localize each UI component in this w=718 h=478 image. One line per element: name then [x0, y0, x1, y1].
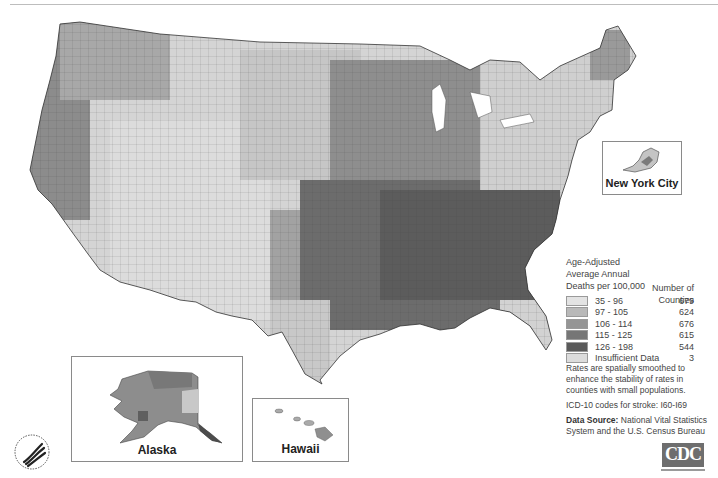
- nyc-inset: New York City: [602, 141, 682, 195]
- legend-swatch: [566, 307, 588, 317]
- alaska-inset: Alaska: [71, 356, 243, 462]
- alaska-label: Alaska: [72, 443, 242, 457]
- legend-swatch: [566, 353, 588, 363]
- map-notes: Rates are spatially smoothed to enhance …: [566, 363, 716, 441]
- legend-count: 615: [679, 330, 694, 340]
- legend-title-line-1: Age-Adjusted: [566, 256, 718, 268]
- legend-count: 544: [679, 342, 694, 352]
- smoothing-note: Rates are spatially smoothed to enhance …: [566, 363, 716, 396]
- legend-count: 3: [689, 353, 694, 363]
- legend-count: 679: [679, 296, 694, 306]
- nyc-label: New York City: [603, 177, 681, 189]
- legend: Age-Adjusted Average Annual Deaths per 1…: [566, 256, 718, 364]
- legend-row: 106 - 114 676: [566, 318, 718, 330]
- nyc-shape: [603, 144, 681, 178]
- icd-codes-note: ICD-10 codes for stroke: I60-I69: [566, 400, 716, 411]
- legend-count: 624: [679, 307, 694, 317]
- legend-row: 97 - 105 624: [566, 307, 718, 319]
- legend-row: 115 - 125 615: [566, 330, 718, 342]
- legend-swatch: [566, 319, 588, 329]
- legend-range: 97 - 105: [595, 307, 628, 317]
- legend-range: 115 - 125: [595, 330, 632, 340]
- cdc-logo: CDC: [662, 443, 704, 467]
- legend-swatch: [566, 296, 588, 306]
- legend-row: 35 - 96 679: [566, 295, 718, 307]
- legend-row: 126 - 198 544: [566, 341, 718, 353]
- legend-swatch: [566, 342, 588, 352]
- data-source-label: Data Source:: [566, 415, 618, 425]
- alaska-shape: [72, 357, 242, 445]
- legend-count: 676: [679, 319, 694, 329]
- hawaii-inset: Hawaii: [252, 398, 349, 462]
- data-source-note: Data Source: National Vital Statistics S…: [566, 415, 716, 437]
- legend-title-line-2: Average Annual: [566, 268, 718, 280]
- cdc-logo-subline: [661, 469, 705, 471]
- hawaii-shape: [253, 399, 348, 445]
- hawaii-label: Hawaii: [253, 442, 348, 456]
- legend-title-line-3: Deaths per 100,000: [566, 280, 718, 292]
- legend-range: 35 - 96: [595, 296, 623, 306]
- hhs-eagle-seal-icon: [12, 432, 52, 472]
- legend-range: 126 - 198: [595, 342, 633, 352]
- legend-swatch: [566, 330, 588, 340]
- count-header-line-1: Number of: [652, 282, 694, 294]
- legend-range: Insufficient Data: [595, 353, 659, 363]
- legend-range: 106 - 114: [595, 319, 632, 329]
- legend-title: Age-Adjusted Average Annual Deaths per 1…: [566, 256, 718, 292]
